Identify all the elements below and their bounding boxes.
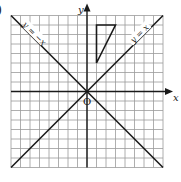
line-label-y-equals-neg-x: y = −x <box>20 19 49 48</box>
coordinate-diagram: ) xyOy = xy = −x <box>0 0 181 182</box>
y-axis-arrow-icon <box>84 4 91 12</box>
line-label-y-equals-neg-x-text: y = −x <box>20 19 49 48</box>
x-axis-label: x <box>173 92 179 103</box>
coordinate-plane: xyOy = xy = −x <box>0 0 181 182</box>
x-axis-arrow-icon <box>165 88 173 95</box>
part-label: ) <box>0 2 2 17</box>
origin-label: O <box>83 96 91 107</box>
y-axis-label: y <box>77 4 84 15</box>
